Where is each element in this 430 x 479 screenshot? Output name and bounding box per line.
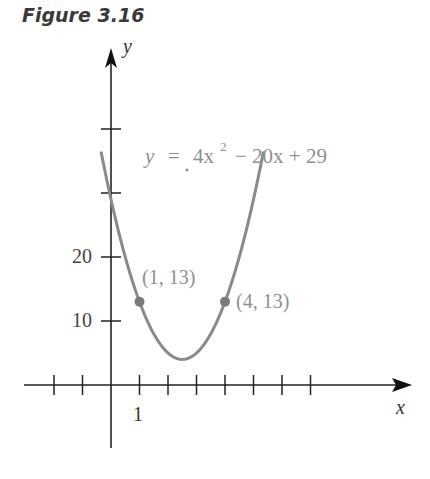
equation-lhs: y <box>143 144 155 168</box>
point-label-4-13: (4, 13) <box>236 290 289 313</box>
equation-exponent: 2 <box>220 139 227 154</box>
point-label-1-13: (1, 13) <box>142 266 195 289</box>
chart: y = 4x 2 − 20x + 29 y x 1 10 20 (1, 13) … <box>0 0 430 479</box>
data-point <box>220 297 230 307</box>
x-axis-label: x <box>395 396 405 418</box>
parabola-curve <box>101 151 263 359</box>
y-tick-label-20: 20 <box>72 245 92 267</box>
stray-dot <box>186 169 189 172</box>
data-point <box>135 297 145 307</box>
equation-coef: 4x <box>193 144 215 168</box>
y-tick-label-10: 10 <box>72 309 92 331</box>
equation-equals: = <box>168 144 180 168</box>
x-tick-label-1: 1 <box>133 403 143 425</box>
data-points <box>135 297 231 307</box>
y-axis-label: y <box>121 35 132 58</box>
equation-rest: − 20x + 29 <box>235 144 327 168</box>
